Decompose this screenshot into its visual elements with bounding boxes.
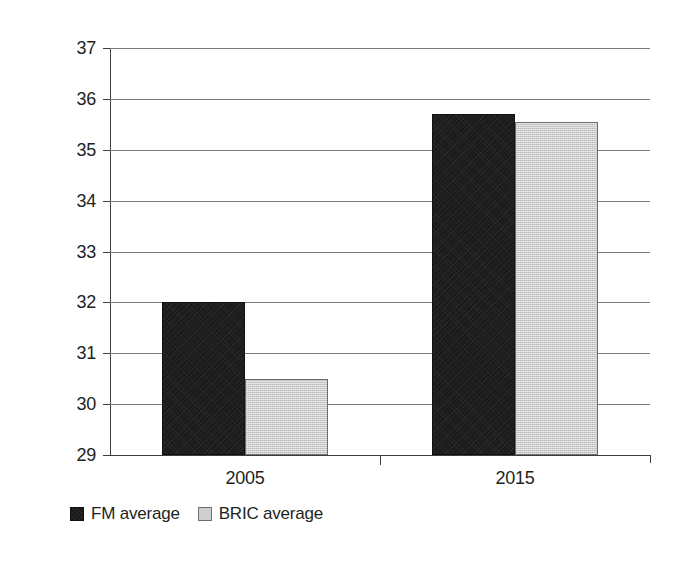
- chart-legend: FM average BRIC average: [70, 505, 323, 522]
- y-tick-mark: [103, 150, 110, 151]
- y-tick-mark: [103, 404, 110, 405]
- legend-swatch-bric-icon: [198, 507, 212, 521]
- legend-item-bric[interactable]: BRIC average: [198, 505, 323, 522]
- y-tick-label: 31: [52, 344, 96, 362]
- y-tick-label: 30: [52, 395, 96, 413]
- y-tick-mark: [103, 302, 110, 303]
- gridline: [110, 99, 650, 100]
- y-tick-label: 29: [52, 446, 96, 464]
- y-tick-label: 37: [52, 39, 96, 57]
- y-tick-mark: [103, 455, 110, 456]
- x-axis-label-2005: 2005: [185, 468, 305, 488]
- y-tick-label: 35: [52, 141, 96, 159]
- y-tick-mark: [103, 201, 110, 202]
- legend-item-fm[interactable]: FM average: [70, 505, 180, 522]
- gridline: [110, 48, 650, 49]
- y-tick-label: 33: [52, 243, 96, 261]
- plot-area: [110, 48, 650, 455]
- bar-fm-average-2015[interactable]: [432, 114, 515, 455]
- bar-fm-average-2005[interactable]: [162, 302, 245, 455]
- bar-chart: 293031323334353637 20052015 FM average B…: [0, 0, 681, 561]
- y-tick-mark: [103, 48, 110, 49]
- bar-bric-average-2005[interactable]: [245, 379, 328, 455]
- bar-bric-average-2015[interactable]: [515, 122, 598, 455]
- y-tick-mark: [103, 252, 110, 253]
- x-axis-separator-tick: [380, 456, 381, 465]
- y-tick-mark: [103, 99, 110, 100]
- y-tick-label: 36: [52, 90, 96, 108]
- x-axis-label-2015: 2015: [455, 468, 575, 488]
- y-tick-label: 34: [52, 192, 96, 210]
- y-tick-label: 32: [52, 293, 96, 311]
- x-axis-end-tick: [650, 455, 651, 463]
- legend-swatch-fm-icon: [70, 507, 84, 521]
- y-tick-mark: [103, 353, 110, 354]
- legend-label-bric: BRIC average: [219, 505, 323, 522]
- legend-label-fm: FM average: [91, 505, 180, 522]
